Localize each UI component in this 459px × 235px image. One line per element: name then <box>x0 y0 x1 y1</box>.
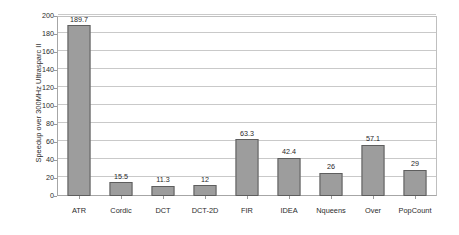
x-axis-label: IDEA <box>280 206 297 216</box>
bar-slot: 57.1 <box>352 16 394 196</box>
y-tickmark <box>54 196 57 197</box>
bar-slot: 63.3 <box>226 16 268 196</box>
bar-value-label: 11.3 <box>156 176 169 184</box>
x-axis-label: DCT-2D <box>192 206 219 216</box>
bar[interactable] <box>194 185 217 196</box>
bar[interactable] <box>152 186 175 196</box>
x-axis-label: Nqueens <box>316 206 346 216</box>
bar[interactable] <box>110 182 133 196</box>
x-axis-label: DCT <box>155 206 170 216</box>
bar-value-label: 15.5 <box>114 173 128 181</box>
x-tickmark <box>121 196 122 199</box>
bar-value-label: 189.7 <box>70 16 88 24</box>
y-tick-label: 200 <box>30 12 54 20</box>
x-tickmark <box>247 196 248 199</box>
bar-slot: 12 <box>184 16 226 196</box>
bar[interactable] <box>320 173 343 196</box>
bar-value-label: 12 <box>201 176 209 184</box>
bar[interactable] <box>404 170 427 196</box>
x-axis-label: Over <box>365 206 381 216</box>
y-tick-label: 160 <box>30 48 54 56</box>
x-tickmark <box>415 196 416 199</box>
y-axis-tick-labels: 020406080100120140160180200 <box>26 16 54 196</box>
x-tickmark <box>373 196 374 199</box>
bar[interactable] <box>68 25 91 196</box>
x-axis-label: ATR <box>72 206 86 216</box>
bar-value-label: 29 <box>411 160 419 168</box>
y-tick-label: 80 <box>30 120 54 128</box>
bar-slot: 189.7 <box>58 16 100 196</box>
x-axis-labels: ATRCordicDCTDCT-2DFIRIDEANqueensOverPopC… <box>58 206 436 220</box>
bar-slot: 15.5 <box>100 16 142 196</box>
y-tick-label: 100 <box>30 102 54 110</box>
y-tick-label: 180 <box>30 30 54 38</box>
x-axis-label: Cordic <box>110 206 131 216</box>
bar-slot: 26 <box>310 16 352 196</box>
bar-value-label: 26 <box>327 163 335 171</box>
x-axis-label: FIR <box>241 206 253 216</box>
x-tickmark <box>331 196 332 199</box>
bar[interactable] <box>278 158 301 196</box>
bar-chart: Speedup over 300MHz Ultrasparc II 020406… <box>0 0 459 235</box>
bar[interactable] <box>236 139 259 196</box>
gridline <box>58 14 436 15</box>
y-tick-label: 120 <box>30 84 54 92</box>
x-tickmark <box>163 196 164 199</box>
bar[interactable] <box>362 145 385 196</box>
bar-value-label: 42.4 <box>282 148 296 156</box>
bar-slot: 42.4 <box>268 16 310 196</box>
bar-value-label: 57.1 <box>366 135 380 143</box>
bar-slot: 11.3 <box>142 16 184 196</box>
y-tick-label: 40 <box>30 156 54 164</box>
x-tickmark <box>79 196 80 199</box>
y-tick-label: 0 <box>30 192 54 200</box>
x-axis-label: PopCount <box>399 206 432 216</box>
bars-layer: 189.715.511.31263.342.42657.129 <box>58 16 436 196</box>
bar-slot: 29 <box>394 16 436 196</box>
x-tickmark <box>289 196 290 199</box>
y-tick-label: 20 <box>30 174 54 182</box>
bar-value-label: 63.3 <box>240 130 254 138</box>
x-tickmark <box>205 196 206 199</box>
y-tick-label: 60 <box>30 138 54 146</box>
y-tick-label: 140 <box>30 66 54 74</box>
